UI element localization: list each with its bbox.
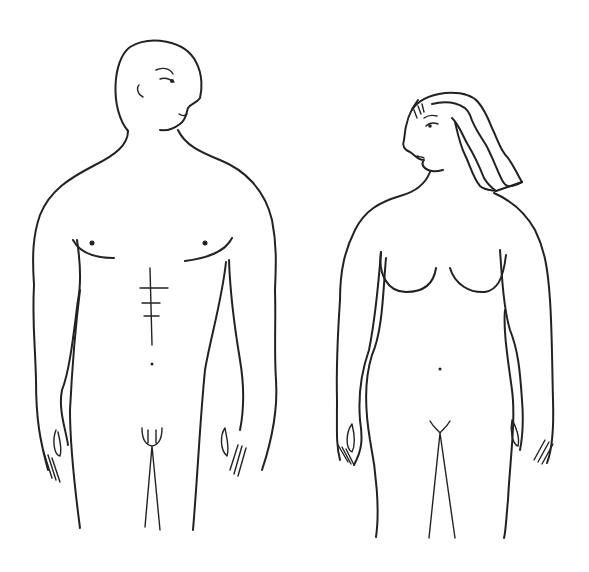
female-eyebrow [424,115,437,118]
male-figure [33,41,276,530]
male-left-shoulder [33,131,128,285]
female-right-breast [450,255,506,292]
female-right-arm-outer [547,300,553,463]
male-ear [138,85,143,97]
male-groin [142,428,162,530]
male-pupil [170,79,174,83]
male-right-arm-outer [262,290,276,470]
female-hair-wave-1 [432,102,522,186]
male-left-arm-outer [33,285,48,470]
male-abdomen-line [140,268,168,345]
male-navel [151,363,154,366]
male-eyebrow [156,68,173,74]
female-eye [426,123,438,126]
female-right-hand [511,420,553,464]
female-left-arm-outer [337,300,340,460]
female-hair-wave-2 [452,118,496,191]
illustration-canvas [0,0,589,572]
female-left-arm-inner [354,252,381,465]
male-right-torso-side [193,262,226,530]
male-left-nipple [90,241,95,246]
female-hair-wave-3 [455,122,522,191]
female-figure [337,93,554,538]
female-pupil [428,124,432,128]
female-left-breast [380,252,436,292]
figures-drawing [0,0,589,572]
female-hair-outline [412,93,522,182]
male-right-hand [221,428,246,476]
male-left-hand [43,430,61,482]
male-head-outline [115,41,201,131]
female-navel [439,368,442,371]
male-right-pectoral [185,238,232,261]
male-right-shoulder [178,130,276,290]
female-groin [429,421,455,538]
male-mouth [179,114,187,116]
male-right-arm-inner [229,260,243,430]
male-right-nipple [203,241,208,246]
